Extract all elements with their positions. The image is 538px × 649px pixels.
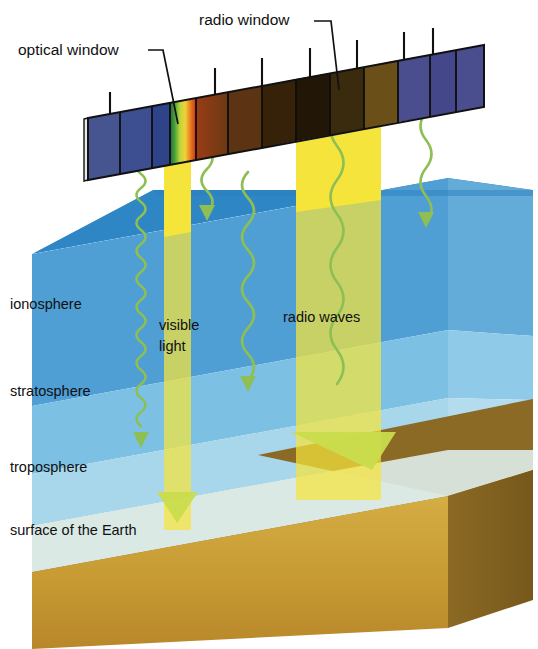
- layer-right-ionosphere: [448, 178, 533, 336]
- figure-root: radio window optical window ionosphere s…: [0, 0, 538, 649]
- spectrum-band-radio-mid: [398, 55, 430, 122]
- beam-label-visible-light-line1: visible: [159, 317, 199, 333]
- spectrum-bar[interactable]: [84, 28, 484, 181]
- spectrum-band-xray: [120, 106, 152, 174]
- spectrum-band-ir-near: [196, 92, 228, 160]
- layer-label-ionosphere: ionosphere: [10, 296, 82, 312]
- layer-label-troposphere: troposphere: [10, 459, 87, 475]
- spectrum-band-submm: [296, 73, 330, 141]
- radio-window-label: radio window: [199, 11, 290, 28]
- spectrum-band-gamma: [88, 112, 120, 180]
- spectrum-band-microwave: [330, 67, 364, 135]
- spectrum-band-radio-long: [430, 50, 456, 117]
- atmosphere-window-diagram: radio window optical window ionosphere s…: [0, 0, 538, 649]
- spectrum-band-ir-mid: [228, 86, 262, 154]
- beam-label-radio-waves: radio waves: [283, 309, 360, 325]
- layer-label-surface: surface of the Earth: [10, 522, 137, 538]
- spectrum-band-ir-far: [262, 79, 296, 148]
- earth-right-face: [448, 470, 533, 628]
- spectrum-band-radio-short: [364, 60, 398, 129]
- spectrum-bands: [88, 45, 484, 180]
- optical-window-label: optical window: [18, 41, 120, 58]
- spectrum-band-uv-far: [152, 103, 170, 168]
- layer-right-stratosphere: [448, 330, 533, 400]
- spectrum-band-radio-xlong: [456, 45, 484, 112]
- beam-label-visible-light-line2: light: [159, 338, 186, 354]
- layer-label-stratosphere: stratosphere: [10, 383, 91, 399]
